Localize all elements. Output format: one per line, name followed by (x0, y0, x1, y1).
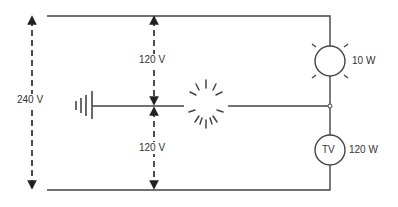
ground-icon (76, 91, 92, 119)
tv-inner-label: TV (322, 144, 335, 156)
bottom-hot-wire (47, 165, 330, 190)
wires (47, 16, 330, 190)
circuit-diagram (0, 0, 398, 207)
lamp-icon (312, 44, 348, 78)
lamp-wattage-label: 10 W (352, 55, 375, 67)
voltage-arrows (32, 20, 154, 185)
top-hot-wire (47, 16, 330, 46)
voltage-label-total: 240 V (17, 94, 43, 106)
tv-wattage-label: 120 W (349, 144, 378, 156)
junction-node (328, 104, 332, 108)
voltage-label-upper: 120 V (139, 54, 165, 66)
broken-neutral-burst-icon (189, 80, 223, 128)
voltage-label-lower: 120 V (139, 142, 165, 154)
